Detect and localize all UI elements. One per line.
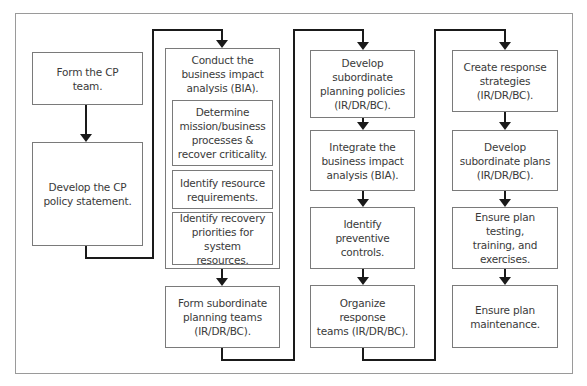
- step-label: Develop subordinate planning policies (I…: [320, 56, 405, 112]
- step-label: Organize response teams (IR/DR/BC).: [317, 296, 408, 338]
- step-label: Create response strategies (IR/DR/BC).: [464, 60, 547, 102]
- step-label: Identify preventive controls.: [315, 217, 410, 259]
- step-label: Integrate the business impact analysis (…: [321, 140, 403, 182]
- step-label: Identify recovery priorities for system …: [177, 211, 268, 267]
- step-create-response-strategies: Create response strategies (IR/DR/BC).: [452, 50, 558, 112]
- step-label: Develop the CP policy statement.: [43, 180, 131, 208]
- step-integrate-bia: Integrate the business impact analysis (…: [310, 130, 415, 191]
- step-develop-cp-policy: Develop the CP policy statement.: [32, 142, 143, 246]
- step-identify-preventive-controls: Identify preventive controls.: [310, 207, 415, 269]
- step-label: Ensure plan testing, training, and exerc…: [457, 210, 553, 266]
- step-label: Form the CP team.: [57, 65, 119, 93]
- step-ensure-plan-testing: Ensure plan testing, training, and exerc…: [452, 207, 558, 269]
- step-develop-subordinate-plans: Develop subordinate plans (IR/DR/BC).: [452, 130, 558, 191]
- step-label: Ensure plan maintenance.: [470, 303, 540, 331]
- cp-process-diagram: Form the CP team. Develop the CP policy …: [0, 0, 587, 386]
- substep-identify-recovery-priorities: Identify recovery priorities for system …: [172, 212, 273, 265]
- step-label: Determine mission/business processes & r…: [178, 105, 267, 161]
- step-form-cp-team: Form the CP team.: [32, 52, 143, 105]
- group-title: Conduct the business impact analysis (BI…: [166, 53, 279, 95]
- step-label: Form subordinate planning teams (IR/DR/B…: [178, 296, 267, 338]
- step-ensure-plan-maintenance: Ensure plan maintenance.: [452, 285, 558, 348]
- step-develop-subordinate-policies: Develop subordinate planning policies (I…: [310, 50, 415, 118]
- step-label: Identify resource requirements.: [180, 176, 265, 204]
- step-organize-response-teams: Organize response teams (IR/DR/BC).: [310, 285, 415, 348]
- step-form-subordinate-teams: Form subordinate planning teams (IR/DR/B…: [165, 286, 280, 348]
- step-label: Develop subordinate plans (IR/DR/BC).: [460, 140, 551, 182]
- substep-identify-resource-requirements: Identify resource requirements.: [172, 170, 273, 209]
- substep-determine-mission: Determine mission/business processes & r…: [172, 100, 273, 166]
